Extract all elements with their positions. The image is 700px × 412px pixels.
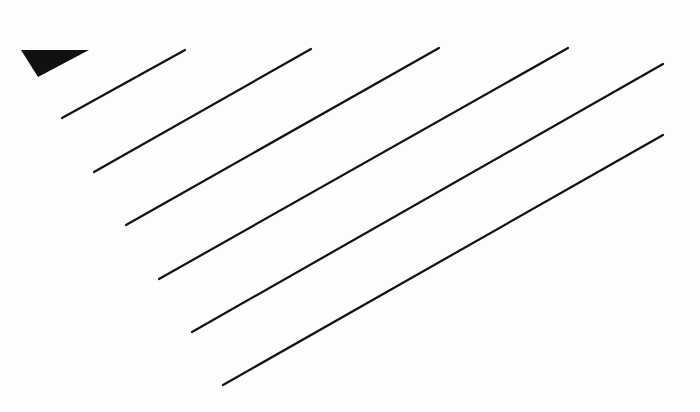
diagonal-lines-diagram — [0, 0, 700, 412]
triangle-marker-icon — [21, 50, 89, 77]
diagonal-line-5 — [192, 64, 663, 332]
diagram-canvas — [0, 0, 700, 412]
diagonal-line-3 — [126, 48, 439, 225]
diagonal-line-1 — [62, 50, 185, 118]
diagonal-line-2 — [94, 49, 311, 172]
parallel-lines-group — [62, 48, 663, 385]
diagonal-line-4 — [159, 48, 568, 279]
diagonal-line-6 — [223, 135, 663, 385]
